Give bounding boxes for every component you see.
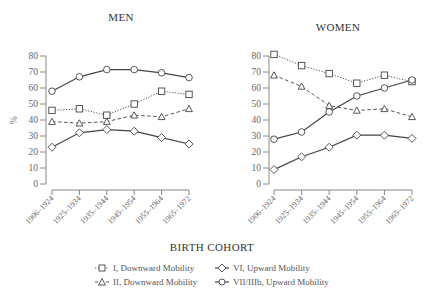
circle-marker-icon bbox=[271, 136, 278, 143]
legend-label: I, Downward Mobility bbox=[113, 261, 194, 275]
triangle-marker-icon bbox=[298, 83, 305, 89]
chart-canvas: MEN01020304050607080%1906–19241925–19341… bbox=[0, 0, 424, 301]
square-dotted-marker-icon bbox=[95, 263, 109, 273]
diamond-marker-icon bbox=[75, 129, 83, 137]
diamond-marker-icon bbox=[130, 127, 138, 135]
circle-marker-icon bbox=[186, 74, 193, 81]
men-panel: MEN01020304050607080%1906–19241925–19341… bbox=[9, 11, 193, 226]
circle-marker-icon bbox=[409, 77, 416, 84]
x-tick-label: 1965–1972 bbox=[161, 194, 193, 226]
square-marker-icon bbox=[76, 106, 82, 112]
x-axis-title: BIRTH COHORT bbox=[0, 241, 424, 253]
diamond-solid-marker-icon bbox=[215, 263, 229, 273]
circle-marker-icon bbox=[298, 129, 305, 136]
x-tick-label: 1945–1954 bbox=[328, 194, 360, 226]
square-marker-icon bbox=[131, 101, 137, 107]
y-tick-label: 0 bbox=[33, 179, 38, 189]
square-marker-icon bbox=[298, 62, 304, 68]
circle-marker-icon bbox=[354, 93, 361, 100]
y-tick-label: 20 bbox=[29, 147, 39, 157]
diamond-marker-icon bbox=[185, 140, 193, 148]
x-tick-label: 1935–1944 bbox=[301, 194, 333, 226]
x-tick-label: 1945–1954 bbox=[106, 194, 138, 226]
diamond-marker-icon bbox=[158, 134, 166, 142]
x-tick-label: 1925–1934 bbox=[51, 194, 83, 226]
legend-item-class-i: I, Downward Mobility bbox=[95, 261, 197, 275]
panel-title: MEN bbox=[108, 11, 133, 23]
x-tick-label: 1906–1924 bbox=[246, 194, 278, 226]
legend-item-class-vii: VII/IIIb, Upward Mobility bbox=[215, 275, 329, 289]
x-tick-label: 1925–1934 bbox=[273, 194, 305, 226]
x-tick-label: 1955–1964 bbox=[133, 194, 165, 226]
square-marker-icon bbox=[186, 91, 192, 97]
circle-marker-icon bbox=[381, 85, 388, 92]
diamond-marker-icon bbox=[48, 143, 56, 151]
series-line bbox=[274, 80, 412, 139]
square-marker-icon bbox=[354, 80, 360, 86]
y-tick-label: 30 bbox=[29, 131, 39, 141]
legend-label: VII/IIIb, Upward Mobility bbox=[233, 275, 329, 289]
y-tick-label: 50 bbox=[29, 99, 39, 109]
y-tick-label: 60 bbox=[252, 83, 262, 93]
circle-marker-icon bbox=[131, 66, 138, 73]
triangle-dashed-marker-icon bbox=[95, 277, 109, 287]
triangle-marker-icon bbox=[326, 102, 333, 108]
legend-right: VI, Upward Mobility VII/IIIb, Upward Mob… bbox=[215, 261, 329, 289]
circle-marker-icon bbox=[326, 109, 333, 116]
legend-item-class-vi: VI, Upward Mobility bbox=[215, 261, 329, 275]
square-marker-icon bbox=[49, 107, 55, 113]
x-tick-label: 1965–1972 bbox=[384, 194, 416, 226]
diamond-marker-icon bbox=[380, 131, 388, 139]
y-tick-label: 50 bbox=[252, 99, 262, 109]
square-marker-icon bbox=[271, 51, 277, 57]
diamond-marker-icon bbox=[298, 153, 306, 161]
legend-left: I, Downward Mobility II, Downward Mobili… bbox=[95, 261, 197, 289]
series-line bbox=[52, 70, 189, 92]
y-tick-label: 0 bbox=[256, 179, 261, 189]
diamond-marker-icon bbox=[408, 134, 416, 142]
y-tick-label: 80 bbox=[252, 51, 262, 61]
y-axis-label: % bbox=[9, 116, 19, 124]
triangle-marker-icon bbox=[271, 72, 278, 78]
circle-marker-icon bbox=[158, 70, 165, 77]
legend-item-class-ii: II, Downward Mobility bbox=[95, 275, 197, 289]
diamond-marker-icon bbox=[325, 143, 333, 151]
y-tick-label: 60 bbox=[29, 83, 39, 93]
y-tick-label: 80 bbox=[29, 51, 39, 61]
series-line bbox=[52, 91, 189, 115]
triangle-marker-icon bbox=[353, 107, 360, 113]
series-line bbox=[274, 135, 412, 169]
y-tick-label: 10 bbox=[252, 163, 262, 173]
circle-marker-icon bbox=[104, 66, 111, 73]
x-tick-label: 1955–1964 bbox=[356, 194, 388, 226]
square-marker-icon bbox=[381, 72, 387, 78]
circle-marker-icon bbox=[49, 88, 56, 95]
series-line bbox=[52, 109, 189, 123]
y-tick-label: 70 bbox=[29, 67, 39, 77]
legend-label: II, Downward Mobility bbox=[113, 275, 197, 289]
y-tick-label: 40 bbox=[29, 115, 39, 125]
square-marker-icon bbox=[326, 70, 332, 76]
women-panel: WOMEN010203040506070801906–19241925–1934… bbox=[246, 21, 416, 226]
diamond-marker-icon bbox=[270, 166, 278, 174]
square-marker-icon bbox=[158, 88, 164, 94]
y-tick-label: 10 bbox=[29, 163, 39, 173]
series-line bbox=[274, 54, 412, 83]
series-line bbox=[52, 130, 189, 148]
circle-marker-icon bbox=[76, 74, 83, 81]
circle-solid-marker-icon bbox=[215, 277, 229, 287]
triangle-marker-icon bbox=[186, 105, 193, 111]
y-tick-label: 40 bbox=[252, 115, 262, 125]
y-tick-label: 30 bbox=[252, 131, 262, 141]
x-tick-label: 1906–1924 bbox=[24, 194, 56, 226]
legend-label: VI, Upward Mobility bbox=[233, 261, 310, 275]
y-tick-label: 70 bbox=[252, 67, 262, 77]
diamond-marker-icon bbox=[353, 131, 361, 139]
y-tick-label: 20 bbox=[252, 147, 262, 157]
diamond-marker-icon bbox=[103, 126, 111, 134]
series-line bbox=[274, 75, 412, 117]
x-tick-label: 1935–1944 bbox=[78, 194, 110, 226]
panel-title: WOMEN bbox=[316, 21, 360, 33]
